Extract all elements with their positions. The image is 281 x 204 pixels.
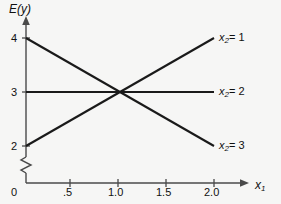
x-axis-title: x1: [255, 178, 265, 192]
y-tick-label-3: 3: [11, 86, 17, 98]
y-tick-label-0: 0: [11, 186, 17, 198]
series-label-3-subscript: 2: [225, 144, 229, 153]
x-axis-title-subscript: 1: [261, 184, 265, 193]
series-label-x2-equals-1: x2= 1: [219, 31, 245, 43]
y-axis-break-zigzag: [21, 157, 31, 173]
y-tick-label-4: 4: [11, 32, 17, 44]
series-label-3-equation: = 3: [229, 139, 245, 151]
x-tick-label-2point0: 2.0: [204, 186, 219, 198]
series-label-2-var: x: [219, 85, 225, 97]
series-label-x2-equals-3: x2= 3: [219, 139, 245, 151]
series-label-2-subscript: 2: [225, 90, 229, 99]
chart-figure: E(y) x1 4 3 2 0 .5 1.0 1.5 2.0 x2= 1 x2=…: [0, 0, 281, 204]
y-axis-arrowhead: [22, 16, 30, 25]
x-tick-label-1point5: 1.5: [156, 186, 171, 198]
x-axis-arrowhead: [240, 179, 249, 187]
y-tick-label-2: 2: [11, 140, 17, 152]
series-label-x2-equals-2: x2= 2: [219, 85, 245, 97]
series-label-1-var: x: [219, 31, 225, 43]
x-tick-label-1point0: 1.0: [108, 186, 123, 198]
series-label-2-equation: = 2: [229, 85, 245, 97]
series-label-3-var: x: [219, 139, 225, 151]
series-label-1-subscript: 2: [225, 36, 229, 45]
series-label-1-equation: = 1: [229, 31, 245, 43]
y-axis-title: E(y): [9, 2, 31, 16]
x-tick-label-0point5: .5: [63, 186, 72, 198]
